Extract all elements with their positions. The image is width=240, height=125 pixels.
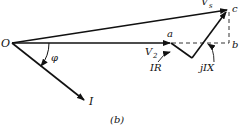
ir-label: IR — [149, 62, 162, 73]
figure-caption: (b) — [110, 114, 124, 125]
phi-label: φ — [51, 52, 58, 63]
jix-vector — [192, 12, 226, 58]
vs-vector — [12, 10, 227, 43]
v2-subscript: 2 — [152, 52, 158, 60]
phasor-diagram: O a b c V s V 2 IR jIX I φ (b) — [0, 0, 240, 125]
phi-arc — [41, 43, 49, 66]
jix-label: jIX — [198, 62, 215, 73]
current-label: I — [88, 95, 94, 108]
ir-pointer — [158, 52, 170, 62]
jix-pointer — [208, 44, 214, 62]
ir-vector — [171, 43, 192, 58]
origin-label: O — [1, 37, 10, 50]
vs-subscript: s — [209, 2, 213, 10]
point-b-label: b — [232, 39, 238, 50]
point-a-label: a — [167, 28, 173, 39]
point-c-label: c — [232, 3, 238, 14]
